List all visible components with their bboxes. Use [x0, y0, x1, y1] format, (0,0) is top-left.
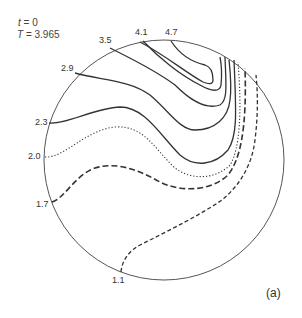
period-label: T = 3.965	[17, 29, 60, 41]
contour-3.5	[110, 48, 226, 106]
panel-label: (a)	[266, 286, 281, 300]
contour-label-2.3: 2.3	[35, 118, 48, 127]
contour-diagram: t = 0 T = 3.965 4.1 4.7 3.5 2.9 2.3 2.0 …	[0, 0, 302, 318]
contour-plot-svg	[0, 0, 302, 318]
contour-4.7	[140, 41, 213, 84]
contour-label-2.0: 2.0	[28, 152, 41, 161]
contour-label-4.1: 4.1	[135, 28, 148, 37]
contour-4.1	[143, 41, 221, 90]
contour-2.0	[45, 62, 240, 177]
contour-1.7	[52, 68, 245, 202]
contour-label-4.7: 4.7	[165, 28, 178, 37]
time-label: t = 0	[18, 17, 38, 29]
t-symbol: t	[18, 17, 21, 28]
T-symbol: T	[17, 29, 23, 40]
contour-label-3.5: 3.5	[99, 36, 112, 45]
T-value: = 3.965	[26, 29, 60, 40]
t-value: = 0	[24, 17, 38, 28]
boundary-circle	[44, 40, 284, 280]
contour-label-2.9: 2.9	[61, 64, 74, 73]
contour-2.3	[49, 60, 236, 163]
contour-label-1.7: 1.7	[36, 200, 49, 209]
contour-label-1.1: 1.1	[112, 276, 125, 285]
